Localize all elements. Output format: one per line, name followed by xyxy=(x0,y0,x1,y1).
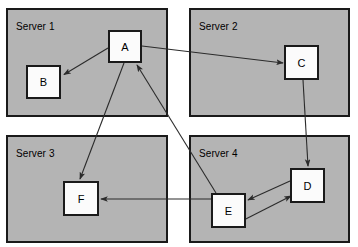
server-label-server1: Server 1 xyxy=(16,21,55,32)
server-label-server2: Server 2 xyxy=(199,21,238,32)
node-e[interactable]: E xyxy=(211,193,246,228)
server-label-server3: Server 3 xyxy=(16,148,55,159)
node-d-label: D xyxy=(304,180,312,192)
node-a-label: A xyxy=(121,41,128,53)
diagram-canvas: Server 1 Server 2 Server 3 Server 4 A B … xyxy=(0,0,358,247)
node-c[interactable]: C xyxy=(284,45,319,80)
node-a[interactable]: A xyxy=(108,30,142,63)
node-d[interactable]: D xyxy=(290,168,325,203)
node-b-label: B xyxy=(40,76,47,88)
server-label-server4: Server 4 xyxy=(199,148,238,159)
node-b[interactable]: B xyxy=(26,65,61,99)
node-e-label: E xyxy=(225,205,232,217)
node-f[interactable]: F xyxy=(63,181,99,216)
node-f-label: F xyxy=(78,193,85,205)
node-c-label: C xyxy=(298,57,306,69)
